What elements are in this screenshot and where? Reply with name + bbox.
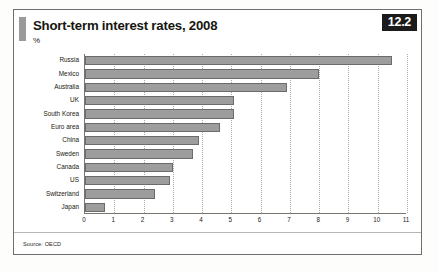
x-tick-label: 11 [403,217,410,223]
x-tick-label: 7 [287,217,291,223]
category-label: Euro area [51,124,79,130]
plot-wrapper: RussiaMexicoAustraliaUKSouth KoreaEuro a… [23,54,414,234]
source-note: Source: OECD [23,241,61,247]
bar [85,163,173,172]
screenshot-root: Short-term interest rates, 2008 % 12.2 R… [0,0,439,273]
bar [85,56,392,65]
bar [85,203,105,212]
category-label: South Korea [43,111,79,117]
bar [85,123,220,132]
title-accent-bar [19,17,26,41]
chart-figure: Short-term interest rates, 2008 % 12.2 R… [13,9,422,255]
x-tick-label: 8 [316,217,320,223]
x-tick-label: 9 [346,217,350,223]
category-label: Sweden [56,151,79,157]
bar [85,83,287,92]
x-tick-label: 6 [258,217,262,223]
category-axis-labels: RussiaMexicoAustraliaUKSouth KoreaEuro a… [23,54,82,214]
x-tick-label: 1 [112,217,116,223]
gridline [319,54,320,213]
bar [85,149,193,158]
category-label: Russia [59,57,79,63]
category-label: Switzerland [46,191,79,197]
x-tick-label: 4 [199,217,203,223]
category-label: US [70,177,79,183]
gridline [348,54,349,213]
category-label: China [62,137,79,143]
bar [85,69,319,78]
bar [85,109,234,118]
gridline [378,54,379,213]
x-tick-label: 0 [82,217,86,223]
category-label: Japan [62,204,79,210]
bar [85,189,155,198]
x-tick-label: 10 [373,217,380,223]
x-tick-label: 5 [229,217,233,223]
category-label: Mexico [59,71,79,77]
x-tick-label: 3 [170,217,174,223]
bar [85,176,170,185]
category-label: Canada [57,164,79,170]
figure-number-badge: 12.2 [382,14,417,31]
x-tick-label: 2 [141,217,145,223]
chart-title: Short-term interest rates, 2008 [33,18,217,33]
gridline [407,54,408,213]
chart-unit-label: % [33,36,40,45]
source-divider [14,232,421,233]
category-label: Australia [54,84,79,90]
category-label: UK [70,97,79,103]
bar [85,136,199,145]
bar [85,96,234,105]
plot-area [84,54,406,214]
